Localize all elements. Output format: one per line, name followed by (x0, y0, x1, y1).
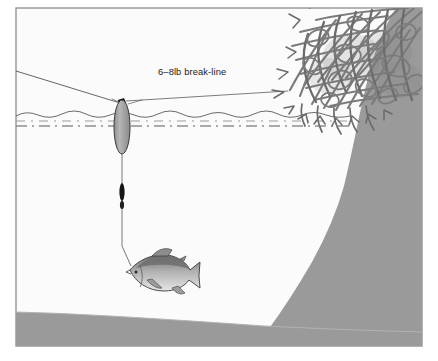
scene-illustration: 6–8lb break-line (0, 0, 438, 361)
split-shot-sinker (119, 183, 124, 201)
fishing-diagram-figure: 6–8lb break-line (0, 0, 438, 361)
split-shot-sinker-secondary (120, 201, 124, 209)
break-line-label: 6–8lb break-line (158, 66, 226, 77)
slip-float (114, 100, 130, 154)
fish-eye (135, 271, 138, 274)
